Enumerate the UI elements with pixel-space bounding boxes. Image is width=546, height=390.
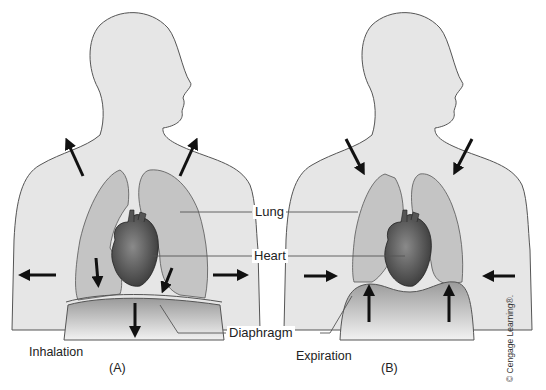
caption-expiration: Expiration [296,349,352,363]
label-lung: Lung [253,205,286,219]
panel-letter-a: (A) [109,361,126,375]
label-diaphragm: Diaphragm [227,326,295,340]
label-heart: Heart [252,249,288,263]
diaphragm-a [64,298,224,340]
panel-letter-b: (B) [381,361,398,375]
figure-inhalation [12,13,260,340]
caption-inhalation: Inhalation [29,345,83,359]
figure-expiration [284,13,532,340]
copyright-notice: © Cengage Learning®. [505,295,515,382]
